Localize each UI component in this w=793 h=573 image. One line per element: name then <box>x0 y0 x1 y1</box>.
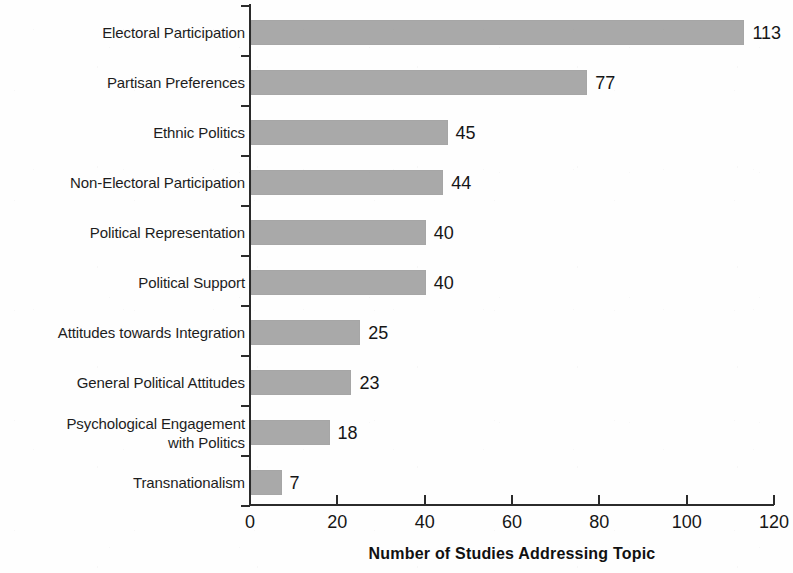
bar <box>251 120 448 145</box>
y-axis-category-label: Political Representation <box>90 223 245 242</box>
y-axis-category-label: Electoral Participation <box>102 23 245 42</box>
x-axis-tick-label: 20 <box>307 512 367 532</box>
bar <box>251 70 587 95</box>
x-axis-tick-label: 40 <box>395 512 455 532</box>
y-axis-tick <box>241 55 250 57</box>
x-axis-tick <box>773 495 775 505</box>
bar-value-label: 113 <box>752 24 781 42</box>
bar <box>251 270 426 295</box>
x-axis-tick <box>598 495 600 505</box>
x-axis-tick-label: 100 <box>657 512 717 532</box>
x-axis-tick <box>336 495 338 505</box>
x-axis-tick-label: 60 <box>482 512 542 532</box>
bar <box>251 470 282 495</box>
bar <box>251 370 351 395</box>
bar <box>251 220 426 245</box>
x-axis-tick <box>249 495 251 505</box>
y-axis-tick <box>241 205 250 207</box>
bar-chart: Electoral ParticipationPartisan Preferen… <box>0 0 793 573</box>
y-axis-tick <box>241 405 250 407</box>
x-axis-tick <box>686 495 688 505</box>
bar-value-label: 45 <box>456 124 476 142</box>
bar-value-label: 44 <box>451 174 471 192</box>
y-axis-tick <box>241 505 250 507</box>
bar <box>251 420 330 445</box>
bar-value-label: 23 <box>359 374 379 392</box>
y-axis-category-label: Attitudes towards Integration <box>58 323 245 342</box>
y-axis-tick <box>241 155 250 157</box>
bar-value-label: 7 <box>290 474 300 492</box>
x-axis-tick-label: 120 <box>744 512 793 532</box>
x-axis-tick-label: 0 <box>220 512 280 532</box>
y-axis-tick <box>241 455 250 457</box>
x-axis-title: Number of Studies Addressing Topic <box>250 545 774 563</box>
y-axis-category-label: Transnationalism <box>133 473 245 492</box>
y-axis-tick <box>241 305 250 307</box>
x-axis-tick-label: 80 <box>569 512 629 532</box>
y-axis-category-label: General Political Attitudes <box>77 373 245 392</box>
x-axis-tick <box>511 495 513 505</box>
bar-value-label: 40 <box>434 274 454 292</box>
y-axis-category-label: Political Support <box>138 273 245 292</box>
bar-value-label: 18 <box>338 424 358 442</box>
bar-value-label: 25 <box>368 324 388 342</box>
bar <box>251 320 360 345</box>
y-axis-category-label: Partisan Preferences <box>107 73 245 92</box>
bar-value-label: 77 <box>595 74 615 92</box>
y-axis-tick <box>241 255 250 257</box>
y-axis-tick <box>241 355 250 357</box>
y-axis-category-label: Ethnic Politics <box>153 123 245 142</box>
y-axis-category-label: Non-Electoral Participation <box>70 173 245 192</box>
y-axis-tick <box>241 105 250 107</box>
bar <box>251 20 744 45</box>
y-axis-tick <box>241 5 250 7</box>
bar-value-label: 40 <box>434 224 454 242</box>
y-axis-category-label: Psychological Engagement with Politics <box>66 414 245 452</box>
bar <box>251 170 443 195</box>
x-axis-tick <box>424 495 426 505</box>
